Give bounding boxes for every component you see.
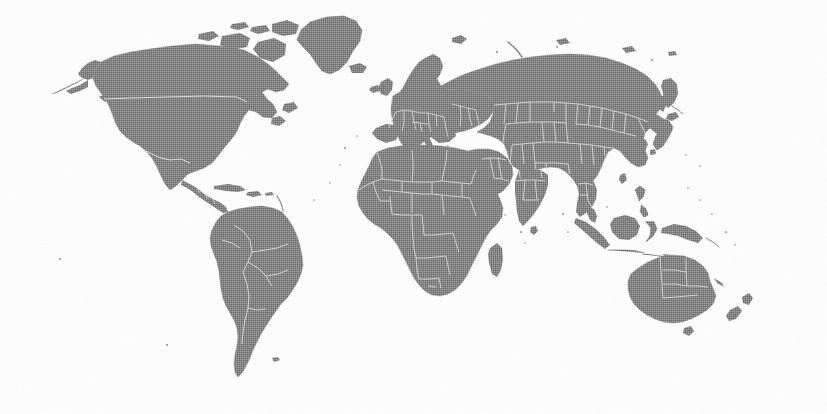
map-grain bbox=[0, 0, 827, 414]
world-map-figure bbox=[0, 0, 827, 414]
world-map-svg bbox=[0, 0, 827, 414]
